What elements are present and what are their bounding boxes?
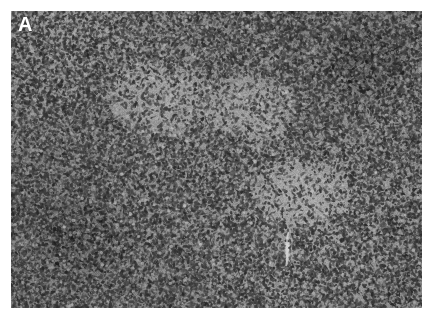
figure-panel: A [0,0,434,318]
micrograph-image [11,11,422,308]
histopathology-micrograph: A [11,11,422,308]
